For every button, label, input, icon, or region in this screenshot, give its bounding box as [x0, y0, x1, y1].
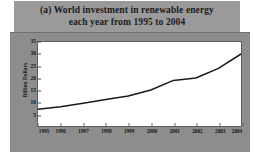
- x-axis-tick-mark: [151, 123, 152, 126]
- figure-renewable-energy-investment: (a) World investment in renewable energy…: [0, 0, 254, 157]
- y-axis-tick-label: 20: [31, 76, 36, 81]
- y-axis-tick-mark: [38, 66, 41, 67]
- y-axis-tick-label: 5: [33, 113, 36, 118]
- y-axis-tick-mark: [38, 91, 41, 92]
- x-axis-tick-label: 1999: [124, 129, 134, 134]
- x-axis-tick-mark: [83, 123, 84, 126]
- x-axis-tick-label: 1996: [56, 129, 66, 134]
- x-axis-tick-label: 2003: [215, 129, 225, 134]
- y-axis-tick-mark: [38, 42, 41, 43]
- x-axis-tick-mark: [243, 123, 244, 126]
- y-axis-tick-mark: [38, 103, 41, 104]
- y-axis-title: Billion Dollars: [22, 52, 28, 108]
- x-axis-tick-label: 1997: [78, 129, 88, 134]
- x-axis-tick-label: 2001: [169, 129, 179, 134]
- chart-title-line-1: (a) World investment in renewable energy: [40, 5, 214, 17]
- chart-title: (a) World investment in renewable energy…: [14, 1, 240, 32]
- x-axis-tick-label: 2000: [147, 129, 157, 134]
- chart-title-line-2: each year from 1995 to 2004: [69, 17, 186, 29]
- y-axis-tick-label: 35: [31, 39, 36, 44]
- chart-panel: Billion Dollars 510152025303519951996199…: [10, 32, 250, 152]
- x-axis-tick-mark: [129, 123, 130, 126]
- data-line: [38, 54, 241, 109]
- line-series-svg: [38, 42, 241, 126]
- x-axis-tick-mark: [38, 123, 39, 126]
- x-axis-tick-label: 2004: [232, 129, 242, 134]
- y-axis-tick-mark: [38, 115, 41, 116]
- y-axis-tick-mark: [38, 78, 41, 79]
- y-axis-tick-label: 10: [31, 101, 36, 106]
- x-axis-tick-mark: [106, 123, 107, 126]
- y-axis-tick-label: 25: [31, 64, 36, 69]
- x-axis-tick-label: 2002: [192, 129, 202, 134]
- x-axis-tick-mark: [60, 123, 61, 126]
- x-axis-tick-label: 1995: [39, 129, 49, 134]
- y-axis-tick-label: 30: [31, 52, 36, 57]
- x-axis-tick-mark: [197, 123, 198, 126]
- plot-area: 5101520253035199519961997199819992000200…: [37, 41, 242, 127]
- y-axis-tick-label: 15: [31, 88, 36, 93]
- x-axis-tick-mark: [174, 123, 175, 126]
- y-axis-tick-mark: [38, 54, 41, 55]
- x-axis-tick-label: 1998: [101, 129, 111, 134]
- x-axis-tick-mark: [220, 123, 221, 126]
